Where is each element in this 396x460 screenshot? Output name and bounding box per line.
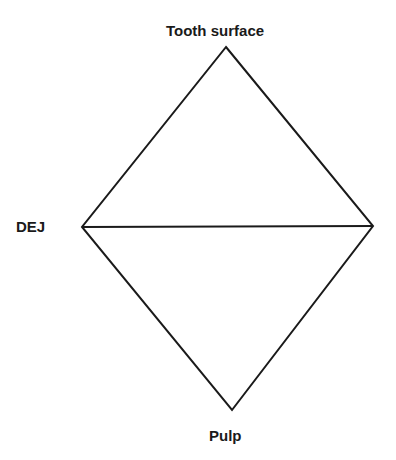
rhombus-diagram [0, 0, 396, 460]
rhombus-outline [82, 47, 373, 410]
dej-line [82, 226, 373, 227]
tooth-surface-label: Tooth surface [166, 22, 264, 39]
pulp-label: Pulp [209, 427, 242, 444]
dej-label: DEJ [16, 218, 45, 235]
diagram-canvas: Tooth surface DEJ Pulp [0, 0, 396, 460]
